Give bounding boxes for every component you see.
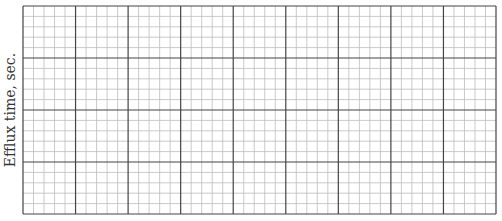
graph-paper-grid <box>0 0 502 221</box>
